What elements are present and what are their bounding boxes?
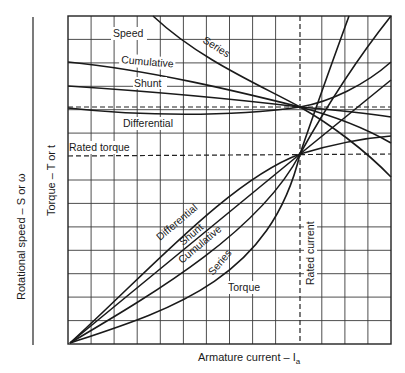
label-speed: Speed xyxy=(113,27,144,39)
label-torque: Torque xyxy=(228,281,260,293)
label-cumulative-speed: Cumulative xyxy=(121,53,175,70)
torque-curve-shunt xyxy=(70,80,391,343)
grid xyxy=(68,16,391,344)
label-rated-torque: Rated torque xyxy=(69,141,130,153)
torque-curve-differential xyxy=(70,136,391,343)
x-axis-title: Armature current – Ia xyxy=(198,351,301,366)
speed-curve-series xyxy=(153,16,391,177)
y-axis-title-torque: Torque – T or t xyxy=(45,145,57,216)
motor-characteristics-chart: Speed Series Cumulative Shunt Differenti… xyxy=(0,0,405,373)
label-shunt-speed: Shunt xyxy=(134,77,162,89)
label-differential-speed: Differential xyxy=(123,117,173,129)
label-rated-current: Rated current xyxy=(304,221,316,285)
y-axis-title-speed: Rotational speed – S or ω xyxy=(15,173,27,300)
torque-curve-series xyxy=(70,16,349,343)
